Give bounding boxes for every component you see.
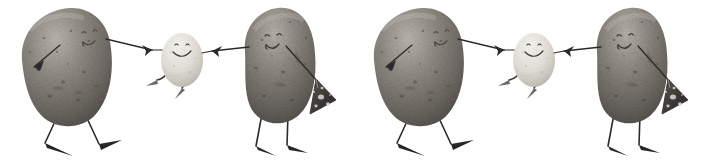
potato-middle-body xyxy=(161,33,203,87)
potato-middle-arm-right xyxy=(554,51,564,53)
character-potato-left xyxy=(374,8,504,156)
character-potato-right xyxy=(564,8,688,156)
chip-bag xyxy=(310,79,336,114)
potato-left-feet xyxy=(397,140,474,156)
illustration-canvas: Three potato characters holding hands Ha… xyxy=(0,0,703,166)
character-potato-middle xyxy=(146,33,212,99)
potato-right-hand-reaching xyxy=(564,46,574,57)
character-potato-middle xyxy=(498,33,564,99)
character-potato-left xyxy=(22,8,152,156)
chip-bag xyxy=(662,79,688,114)
potato-right-feet xyxy=(256,145,308,156)
potato-right-feet xyxy=(608,145,660,156)
potato-right-hands xyxy=(564,46,574,57)
potato-middle-body xyxy=(513,33,555,87)
illustration-tile xyxy=(0,0,351,166)
potato-right-hand-reaching xyxy=(212,46,222,57)
character-potato-right xyxy=(212,8,336,156)
illustration-tile xyxy=(352,0,703,166)
potato-left-hand-reaching xyxy=(142,45,152,56)
potato-left-hand-reaching xyxy=(494,45,504,56)
potato-right-hands xyxy=(212,46,222,57)
potato-left-feet xyxy=(45,140,122,156)
potato-middle-arm-right xyxy=(202,51,212,53)
